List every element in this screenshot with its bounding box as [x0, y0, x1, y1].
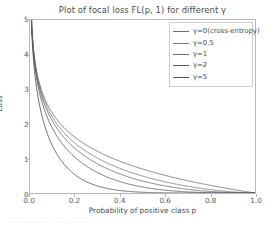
y-axis-title: Loss — [0, 96, 4, 112]
x-tick-label: 0.2 — [69, 196, 80, 205]
legend-line-swatch — [173, 65, 189, 66]
chart-title: Plot of focal loss FL(p, 1) for differen… — [29, 5, 256, 15]
y-tick-mark — [26, 19, 29, 20]
legend-item[interactable]: γ=1 — [173, 49, 248, 60]
legend-box: γ=0(cross-entropy)γ=0.5γ=1γ=2γ=5 — [169, 22, 253, 87]
clipped-caption-text: ——— —— —— ——— — [8, 222, 91, 226]
x-tick-mark — [165, 194, 166, 197]
x-tick-mark — [211, 194, 212, 197]
figure-canvas: Plot of focal loss FL(p, 1) for differen… — [0, 0, 276, 231]
legend-item-label: γ=5 — [193, 74, 207, 81]
y-tick-mark — [26, 124, 29, 125]
legend-line-swatch — [173, 31, 189, 32]
x-tick-label: 0.8 — [205, 196, 216, 205]
x-tick-label: 0.4 — [114, 196, 125, 205]
x-axis-title: Probability of positive class p — [29, 206, 256, 215]
clipped-caption-strip: ——— —— —— ——— — [0, 222, 276, 231]
x-tick-mark — [256, 194, 257, 197]
legend-line-swatch — [173, 43, 189, 44]
y-tick-mark — [26, 194, 29, 195]
legend-item[interactable]: γ=0.5 — [173, 37, 248, 48]
x-tick-label: 1.0 — [250, 196, 261, 205]
x-tick-mark — [74, 194, 75, 197]
legend-line-swatch — [173, 54, 189, 55]
y-tick-mark — [26, 54, 29, 55]
legend-item-label: γ=0.5 — [193, 40, 214, 47]
y-tick-mark — [26, 89, 29, 90]
x-tick-label: 0.6 — [159, 196, 170, 205]
y-tick-mark — [26, 159, 29, 160]
legend-item-label: γ=0(cross-entropy) — [193, 28, 260, 35]
x-tick-mark — [120, 194, 121, 197]
x-tick-mark — [29, 194, 30, 197]
legend-item[interactable]: γ=0(cross-entropy) — [173, 26, 248, 37]
legend-item-label: γ=1 — [193, 51, 207, 58]
legend-item[interactable]: γ=5 — [173, 72, 248, 83]
legend-item-label: γ=2 — [193, 62, 207, 69]
legend-line-swatch — [173, 77, 189, 78]
legend-item[interactable]: γ=2 — [173, 60, 248, 71]
